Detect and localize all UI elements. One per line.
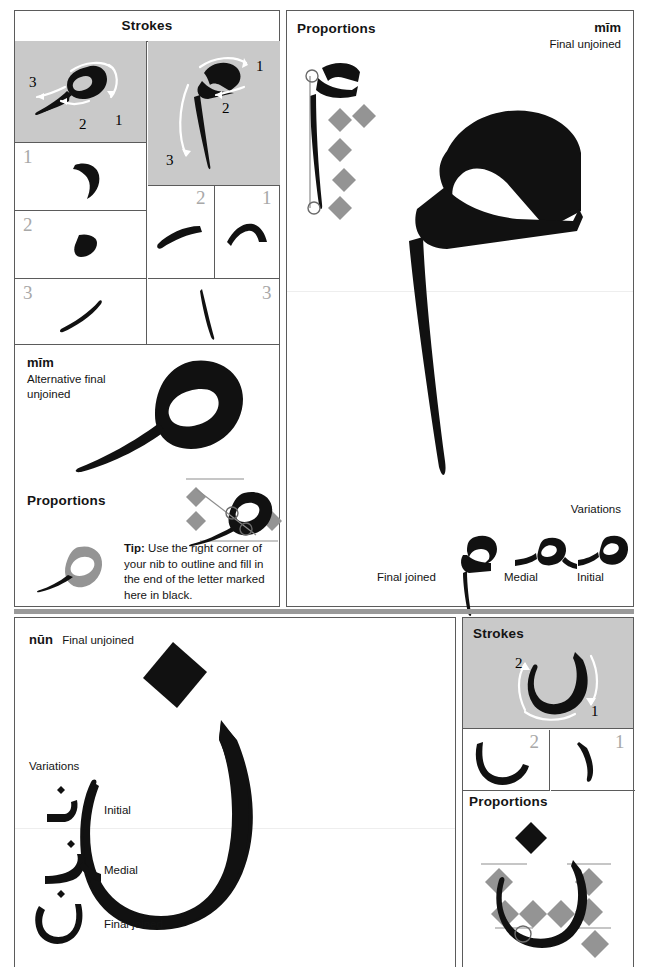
tip-bold-label: Tip: (124, 542, 145, 554)
mim-alternative-glyph (67, 351, 267, 481)
nun-panel: nūn Final unjoined Variations Initial Me… (14, 617, 456, 967)
nun-letter-name: nūn (29, 632, 53, 647)
nun-variation-label-medial: Medial (104, 864, 138, 876)
nun-variation-glyph-final-joined (33, 888, 103, 948)
mim-variation-label-initial: Initial (577, 571, 604, 583)
nun-variation-label-initial: Initial (104, 804, 131, 816)
tip-body-text: Use the right corner of your nib to outl… (124, 542, 265, 601)
mim-stroke-cell-2: 2 (15, 211, 147, 279)
mim-proportions-diagram (296, 56, 386, 231)
mim-strokes-header: Strokes (15, 11, 279, 42)
nun-strokes-panel: Strokes 2 1 2 1 P (462, 617, 634, 967)
mim-alternative-panel: mīm Alternative final unjoined Proportio… (14, 345, 280, 607)
svg-text:2: 2 (222, 100, 230, 116)
svg-text:2: 2 (79, 116, 87, 132)
svg-text:1: 1 (591, 703, 599, 719)
nun-proportions-diagram (471, 816, 631, 966)
mim-main-proportions-label: Proportions (297, 21, 376, 36)
mim-alt-proportions-diagram (170, 473, 290, 549)
mim-variations-label: Variations (571, 503, 621, 515)
mim-strokes-panel: Strokes 3 2 1 (14, 10, 280, 345)
mim-variation-label-medial: Medial (504, 571, 538, 583)
svg-text:2: 2 (515, 655, 523, 671)
nun-proportions-header: Proportions (469, 794, 548, 809)
nun-stroke-cell-2: 2 (463, 730, 550, 791)
mim-stroke-demo-left: 3 2 1 (15, 41, 147, 143)
nun-variation-glyph-medial (37, 836, 107, 892)
svg-text:1: 1 (115, 112, 123, 128)
mim-main-subtitle: Final unjoined (549, 38, 621, 50)
mim-stroke-demo-right: 1 2 3 (148, 41, 280, 186)
nun-main-glyph (73, 630, 333, 960)
nun-variations-label: Variations (29, 760, 79, 772)
nun-variation-glyph-initial (37, 780, 97, 832)
nun-stroke-demo: Strokes 2 1 (463, 618, 633, 729)
mim-stroke-cell-r3: 3 (148, 279, 280, 345)
mim-stroke-cell-1: 1 (15, 143, 147, 211)
calligraphy-worksheet-page: Strokes 3 2 1 (0, 0, 648, 967)
mim-stroke-cell-3: 3 (15, 279, 147, 345)
section-divider (14, 609, 634, 614)
mim-main-glyph (387, 91, 617, 501)
svg-text:1: 1 (256, 58, 264, 74)
mim-alt-proportions-label: Proportions (27, 493, 106, 508)
mim-alt-subtitle-2: unjoined (27, 388, 70, 400)
mim-alt-letter-name: mīm (27, 355, 54, 370)
mim-tip-glyph (35, 541, 115, 596)
mim-stroke-cell-r1: 1 (215, 186, 280, 279)
nun-stroke-cell-1: 1 (551, 730, 635, 791)
mim-variation-label-final-joined: Final joined (377, 571, 436, 583)
mim-tip-text: Tip: Use the right corner of your nib to… (124, 541, 274, 603)
mim-stroke-cell-r2: 2 (148, 186, 215, 279)
mim-variation-glyph-final-joined (445, 529, 505, 619)
nun-variation-label-final-joined: Final joined (104, 918, 163, 930)
svg-text:3: 3 (29, 74, 37, 90)
mim-main-panel: Proportions mīm Final unjoined (286, 10, 634, 607)
mim-main-letter-name: mīm (594, 20, 621, 35)
svg-text:3: 3 (166, 152, 174, 168)
